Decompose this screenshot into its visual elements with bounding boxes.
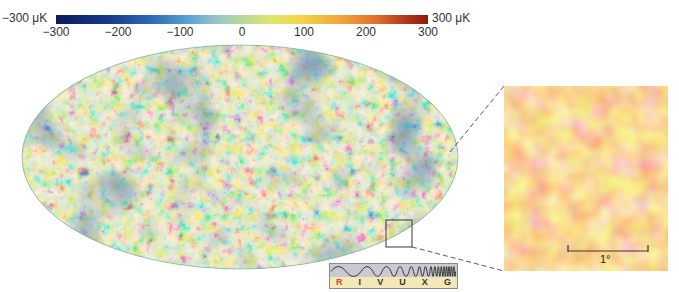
band-label-xray: X [422, 277, 428, 288]
band-label-visible: V [377, 277, 383, 288]
inset-image [504, 86, 668, 271]
band-label-infrared: I [359, 277, 362, 288]
band-labels: R I V U X G [330, 277, 457, 288]
spectrum-strip: R I V U X G [329, 263, 458, 289]
band-label-radio: R [336, 277, 343, 288]
connector-line-top [450, 86, 504, 152]
band-label-ultraviolet: U [399, 277, 406, 288]
band-label-gamma: G [444, 277, 451, 288]
scale-bar-label: 1° [600, 253, 611, 265]
sky-map-pixels [22, 45, 458, 270]
magnified-inset [504, 86, 668, 271]
wavelength-wave [330, 264, 457, 277]
